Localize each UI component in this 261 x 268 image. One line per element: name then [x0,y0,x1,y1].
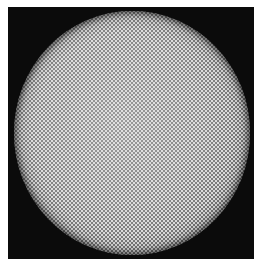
black-frame [8,7,254,259]
disc-edge-shading [14,11,250,255]
dotted-disc [14,11,250,255]
